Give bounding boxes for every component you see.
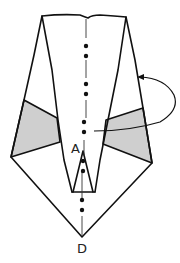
left-inner-edge [42, 16, 72, 192]
fold-dot [84, 54, 88, 58]
label-point-a: A [71, 141, 80, 156]
left-shaded-flap [11, 100, 60, 157]
fold-dot [84, 92, 88, 96]
fold-dot [84, 44, 88, 48]
fold-dot [81, 159, 85, 163]
fold-dot [80, 198, 84, 202]
fold-dot [81, 169, 85, 173]
fold-dot [84, 82, 88, 86]
fold-dot [80, 208, 84, 212]
label-point-d: D [77, 241, 87, 256]
origami-diagram: A D [0, 0, 180, 263]
fold-dot [82, 120, 86, 124]
right-inner-edge [95, 17, 126, 192]
fold-dot [82, 130, 86, 134]
